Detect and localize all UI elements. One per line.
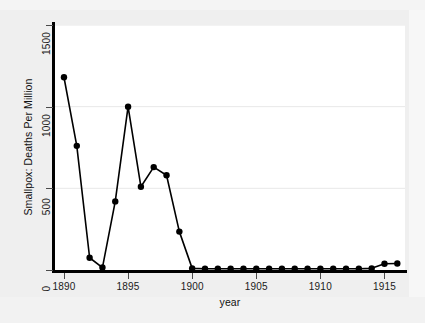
data-point	[163, 172, 169, 178]
data-point-markers	[61, 74, 401, 270]
x-tick-mark	[128, 273, 129, 279]
x-tick-mark	[192, 273, 193, 279]
data-point	[74, 143, 80, 149]
data-point	[151, 164, 157, 170]
plot-area	[55, 25, 405, 270]
series-line	[64, 77, 397, 268]
x-tick-label: 1900	[172, 281, 212, 292]
data-point	[176, 228, 182, 234]
x-tick-mark	[64, 273, 65, 279]
x-tick-mark	[320, 273, 321, 279]
data-line	[64, 77, 397, 268]
data-point	[394, 260, 400, 266]
y-axis-spine	[52, 22, 55, 273]
x-tick-label: 1915	[364, 281, 404, 292]
figure-right-margin	[409, 0, 425, 323]
x-tick-label: 1905	[236, 281, 276, 292]
y-axis-label: Smallpox: Deaths Per Million	[22, 47, 34, 247]
data-point	[125, 103, 131, 109]
chart-figure: 050010001500 189018951900190519101915 Sm…	[0, 0, 425, 323]
y-tick-label: 1500	[41, 24, 52, 64]
data-point	[381, 261, 387, 267]
gridlines	[55, 25, 405, 188]
figure-top-margin	[0, 0, 425, 10]
x-tick-label: 1895	[108, 281, 148, 292]
y-tick-label: 500	[41, 187, 52, 227]
data-point	[112, 198, 118, 204]
x-tick-mark	[256, 273, 257, 279]
data-point	[86, 255, 92, 261]
data-point	[61, 74, 67, 80]
line-chart-svg	[55, 25, 405, 270]
x-tick-mark	[384, 273, 385, 279]
y-tick-label: 1000	[41, 105, 52, 145]
x-axis-spine	[52, 270, 407, 273]
data-point	[138, 184, 144, 190]
x-axis-label: year	[55, 296, 405, 308]
x-tick-label: 1910	[300, 281, 340, 292]
x-tick-label: 1890	[44, 281, 84, 292]
